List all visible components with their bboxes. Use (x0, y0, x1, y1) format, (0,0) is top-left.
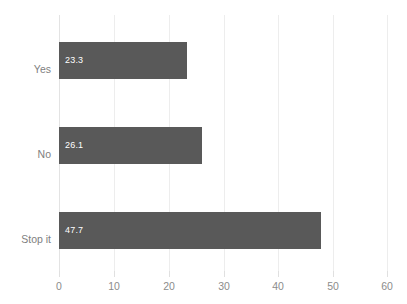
gridline-50 (333, 15, 334, 271)
category-label-no: No (0, 148, 51, 160)
tick-label-20: 20 (163, 280, 175, 292)
bar-chart: Yes No Stop it 23.3 26.1 47.7 (0, 0, 407, 304)
plot-area: 23.3 26.1 47.7 (59, 15, 388, 271)
tick-mark-30 (224, 271, 225, 277)
category-label-stop-it: Stop it (0, 233, 51, 245)
tick-mark-40 (278, 271, 279, 277)
tick-label-10: 10 (108, 280, 120, 292)
tick-mark-0 (59, 271, 60, 277)
bar-stop-it[interactable] (59, 212, 321, 249)
category-axis: Yes No Stop it (0, 15, 51, 271)
tick-label-30: 30 (218, 280, 230, 292)
tick-mark-10 (114, 271, 115, 277)
tick-mark-50 (333, 271, 334, 277)
tick-label-50: 50 (327, 280, 339, 292)
bar-value-no: 26.1 (65, 127, 83, 164)
bar-value-yes: 23.3 (65, 42, 83, 79)
tick-mark-20 (169, 271, 170, 277)
tick-mark-60 (387, 271, 388, 277)
category-label-yes: Yes (0, 63, 51, 75)
gridline-60 (387, 15, 388, 271)
tick-label-40: 40 (272, 280, 284, 292)
tick-label-60: 60 (381, 280, 393, 292)
tick-label-0: 0 (56, 280, 62, 292)
x-axis: 0 10 20 30 40 50 60 (59, 271, 388, 297)
bar-value-stop-it: 47.7 (65, 212, 83, 249)
